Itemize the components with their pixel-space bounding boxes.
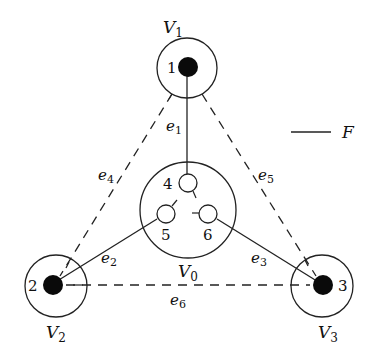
legend-label: F: [341, 122, 355, 142]
label-e3: e3: [251, 249, 267, 269]
label-v2: V2: [46, 322, 66, 345]
node-5: [157, 205, 175, 223]
graph-diagram: V1 V0 V2 V3 1 2 3 4 5 6 e1 e2 e3 e4 e5 e…: [0, 0, 372, 356]
label-v0: V0: [178, 261, 198, 284]
stub-4: [193, 191, 196, 198]
stub-5: [172, 200, 177, 206]
label-e5: e5: [258, 166, 274, 186]
label-node-5: 5: [161, 226, 171, 244]
label-e1: e1: [166, 117, 182, 137]
node-1: [178, 57, 198, 77]
edge-e4: [60, 94, 172, 276]
stub-v1-left: [169, 94, 172, 99]
node-4: [179, 174, 197, 192]
label-node-4: 4: [163, 175, 173, 193]
label-v3: V3: [318, 322, 338, 345]
node-3: [313, 275, 333, 295]
label-e6: e6: [170, 291, 186, 311]
label-e2: e2: [101, 249, 117, 269]
label-node-6: 6: [203, 226, 213, 244]
label-node-1: 1: [167, 59, 177, 77]
label-node-3: 3: [338, 277, 348, 295]
label-node-2: 2: [28, 277, 38, 295]
node-6: [199, 205, 217, 223]
label-e4: e4: [98, 166, 114, 186]
label-v1: V1: [163, 17, 183, 40]
node-2: [43, 275, 63, 295]
